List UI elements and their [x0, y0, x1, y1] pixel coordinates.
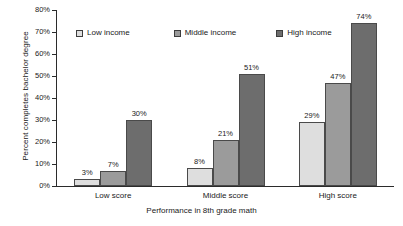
y-axis-tick-labels: 0%10%20%30%40%50%60%70%80% [22, 10, 50, 186]
y-axis-tick-label: 20% [22, 138, 50, 146]
y-axis-tick-label: 50% [22, 72, 50, 80]
bar-value-label: 30% [118, 109, 160, 118]
legend-swatch-icon [276, 30, 283, 37]
bar[interactable] [299, 122, 325, 186]
y-axis-tick-label: 0% [22, 182, 50, 190]
legend-label: Low income [87, 28, 130, 38]
legend-entry[interactable]: Low income [76, 28, 130, 38]
y-axis-tick-mark [52, 76, 56, 77]
y-axis-tick-label: 70% [22, 28, 50, 36]
y-axis-tick-mark [52, 98, 56, 99]
y-axis-tick-mark [52, 186, 56, 187]
bar[interactable] [325, 83, 351, 186]
y-axis-tick-label: 10% [22, 160, 50, 168]
bar[interactable] [239, 74, 265, 186]
y-axis-tick-label: 40% [22, 94, 50, 102]
legend-swatch-icon [174, 30, 181, 37]
y-axis-tick-mark [52, 120, 56, 121]
y-axis-tick-label: 30% [22, 116, 50, 124]
y-axis-tick-mark [52, 32, 56, 33]
bar-value-label: 51% [231, 63, 273, 72]
x-axis-tick-labels: Low scoreMiddle scoreHigh score [57, 190, 394, 202]
bar[interactable] [100, 171, 126, 186]
x-axis-tick-label: Low score [57, 190, 169, 201]
bar[interactable] [351, 23, 377, 186]
legend-entry[interactable]: High income [276, 28, 331, 38]
y-axis-tick-mark [52, 142, 56, 143]
y-axis-tick-label: 60% [22, 50, 50, 58]
bar-value-label: 74% [343, 12, 385, 21]
bar-column[interactable]: 74% [351, 10, 377, 186]
bar[interactable] [126, 120, 152, 186]
bar-chart: Percent completes bachelor degree 0%10%2… [0, 0, 403, 226]
x-axis-tick-label: Middle score [169, 190, 281, 201]
y-axis-tick-label: 80% [22, 6, 50, 14]
bar[interactable] [74, 179, 100, 186]
legend-entry[interactable]: Middle income [174, 28, 237, 38]
x-axis-line [56, 186, 394, 187]
y-axis-tick-mark [52, 10, 56, 11]
legend-label: Middle income [185, 28, 237, 38]
bar[interactable] [187, 168, 213, 186]
legend-label: High income [287, 28, 331, 38]
x-axis-tick-label: High score [282, 190, 394, 201]
x-axis-title: Performance in 8th grade math [0, 205, 403, 216]
bar[interactable] [213, 140, 239, 186]
y-axis-tick-mark [52, 164, 56, 165]
chart-legend: Low incomeMiddle incomeHigh income [76, 27, 332, 39]
legend-swatch-icon [76, 30, 83, 37]
y-axis-tick-mark [52, 54, 56, 55]
